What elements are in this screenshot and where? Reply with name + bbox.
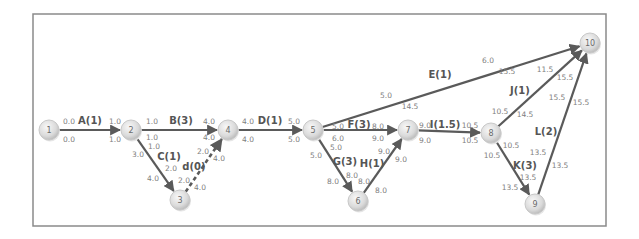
time-value: 5.0 [310, 151, 322, 160]
time-value: 9.0 [395, 155, 407, 164]
time-value: 10.5 [462, 121, 479, 130]
time-value: 5.0 [380, 91, 392, 100]
activity-label-K: K(3) [513, 160, 537, 171]
time-value: 2.0 [197, 147, 209, 156]
time-value: 1.0 [148, 142, 160, 151]
time-value: 4.0 [203, 117, 215, 126]
time-value: 4.0 [194, 183, 206, 192]
activity-label-J: J(1) [509, 85, 530, 96]
time-value: 9.0 [419, 121, 431, 130]
time-value: 4.0 [242, 117, 254, 126]
time-value: 1.0 [146, 133, 158, 142]
time-value: 5.0 [288, 135, 300, 144]
time-value: 13.5 [530, 148, 547, 157]
time-value: 10.5 [503, 141, 520, 150]
activity-label-L: L(2) [535, 126, 557, 137]
time-value: 4.0 [203, 133, 215, 142]
node-number: 6 [355, 197, 360, 206]
time-value: 3.0 [132, 150, 144, 159]
node-number: 7 [405, 126, 410, 135]
time-value: 15.5 [573, 98, 590, 107]
time-value: 4.0 [147, 174, 159, 183]
activity-label-A: A(1) [78, 115, 102, 126]
activity-label-G: G(3) [333, 156, 357, 167]
node-number: 5 [310, 126, 315, 135]
time-value: 8.0 [372, 122, 384, 131]
network-diagram: A(1)0.00.01.01.0B(3)1.01.04.04.0C(1)1.03… [0, 0, 639, 239]
node-number: 10 [585, 39, 595, 48]
time-value: 5.0 [332, 122, 344, 131]
time-value: 15.5 [557, 73, 574, 82]
activity-label-H: H(1) [360, 158, 384, 169]
time-value: 8.0 [375, 186, 387, 195]
time-value: 1.0 [109, 117, 121, 126]
time-value: 2.0 [178, 176, 190, 185]
node-number: 8 [488, 129, 493, 138]
activity-label-I: I(1.5) [430, 119, 461, 130]
time-value: 6.0 [332, 134, 344, 143]
time-value: 1.0 [109, 135, 121, 144]
time-value: 9.0 [419, 136, 431, 145]
time-value: 8.0 [358, 177, 370, 186]
time-value: 13.5 [520, 173, 537, 182]
activity-label-d: d(0) [182, 161, 205, 172]
node-number: 4 [225, 126, 230, 135]
time-value: 6.0 [482, 56, 494, 65]
time-value: 4.0 [213, 154, 225, 163]
time-value: 8.0 [346, 171, 358, 180]
time-value: 10.5 [484, 151, 501, 160]
time-value: 10.5 [492, 107, 509, 116]
time-value: 0.0 [63, 135, 75, 144]
time-value: 8.0 [327, 177, 339, 186]
node-number: 2 [128, 126, 133, 135]
time-value: 15.5 [549, 93, 566, 102]
time-value: 2.0 [165, 164, 177, 173]
time-value: 13.5 [552, 161, 569, 170]
node-number: 1 [46, 126, 51, 135]
activity-label-E: E(1) [429, 69, 452, 80]
time-value: 5.0 [330, 143, 342, 152]
time-value: 14.5 [517, 110, 534, 119]
activity-label-F: F(3) [348, 119, 371, 130]
activity-label-D: D(1) [258, 115, 282, 126]
time-value: 9.0 [372, 134, 384, 143]
time-value: 10.5 [462, 136, 479, 145]
node-number: 3 [177, 196, 182, 205]
activity-label-C: C(1) [157, 151, 180, 162]
time-value: 11.5 [537, 65, 554, 74]
activity-label-B: B(3) [169, 115, 193, 126]
time-value: 0.0 [63, 117, 75, 126]
time-value: 13.5 [502, 183, 519, 192]
node-number: 9 [532, 200, 537, 209]
time-value: 5.0 [288, 117, 300, 126]
time-value: 15.5 [499, 67, 516, 76]
time-value: 9.0 [378, 147, 390, 156]
time-value: 1.0 [146, 117, 158, 126]
time-value: 4.0 [242, 135, 254, 144]
time-value: 14.5 [402, 102, 419, 111]
